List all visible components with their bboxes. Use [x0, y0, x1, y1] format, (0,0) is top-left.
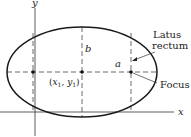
focus-label: Focus — [160, 79, 190, 90]
semi-major-label: a — [115, 58, 121, 69]
ellipse-diagram: y x b a (x1, y1) Latus rectum Focus — [0, 0, 191, 137]
latus-rectum-arrowhead — [132, 57, 137, 61]
left-focus-point — [31, 70, 35, 74]
center-point — [80, 70, 84, 74]
right-focus-point — [129, 70, 133, 74]
semi-minor-label: b — [85, 43, 91, 54]
x-axis-label: x — [178, 106, 184, 117]
focus-pointer — [133, 73, 157, 83]
latus-rectum-label-line1: Latus — [153, 29, 181, 40]
center-coordinates-label: (x1, y1) — [49, 77, 80, 88]
y-axis-label: y — [31, 0, 38, 8]
latus-rectum-label-line2: rectum — [152, 40, 189, 51]
